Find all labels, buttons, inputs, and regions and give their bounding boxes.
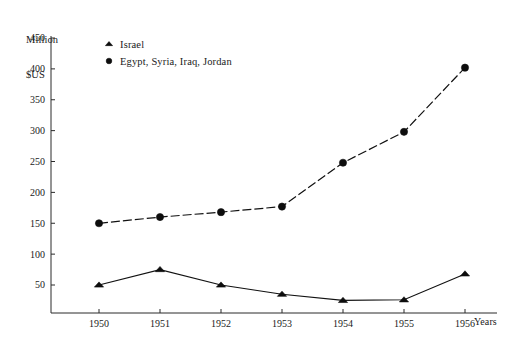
y-tick-label: 100 bbox=[30, 249, 45, 260]
x-tick-label: 1950 bbox=[89, 318, 109, 329]
axis-frame bbox=[51, 36, 497, 313]
x-axis-ticks: 1950195119521953195419551956 bbox=[89, 309, 475, 329]
y-tick-label: 50 bbox=[35, 279, 45, 290]
data-point-circle bbox=[278, 203, 285, 210]
legend-marker-circle bbox=[106, 58, 112, 64]
data-point-circle bbox=[217, 209, 224, 216]
data-point-triangle bbox=[155, 266, 164, 271]
legend-label: Egypt, Syria, Iraq, Jordan bbox=[120, 56, 232, 67]
y-tick-label: 250 bbox=[30, 156, 45, 167]
plot-area: 50100150200250300350400450 1950195119521… bbox=[0, 0, 507, 347]
data-point-circle bbox=[156, 213, 163, 220]
x-tick-label: 1956 bbox=[455, 318, 475, 329]
x-tick-label: 1953 bbox=[272, 318, 292, 329]
series-line-2 bbox=[99, 68, 465, 224]
x-tick-label: 1952 bbox=[211, 318, 231, 329]
legend-label: Israel bbox=[120, 39, 144, 50]
x-tick-label: 1955 bbox=[394, 318, 414, 329]
data-point-circle bbox=[339, 159, 346, 166]
y-tick-label: 450 bbox=[30, 32, 45, 43]
data-point-circle bbox=[461, 64, 468, 71]
y-tick-label: 200 bbox=[30, 187, 45, 198]
x-tick-label: 1951 bbox=[150, 318, 170, 329]
data-point-triangle bbox=[460, 271, 469, 276]
chart-legend: IsraelEgypt, Syria, Iraq, Jordan bbox=[105, 39, 232, 67]
y-tick-label: 350 bbox=[30, 94, 45, 105]
data-point-circle bbox=[95, 220, 102, 227]
data-point-circle bbox=[400, 128, 407, 135]
y-tick-label: 300 bbox=[30, 125, 45, 136]
y-tick-label: 150 bbox=[30, 218, 45, 229]
y-tick-label: 400 bbox=[30, 63, 45, 74]
legend-marker-triangle bbox=[105, 42, 112, 46]
series-layer bbox=[94, 64, 469, 302]
x-tick-label: 1954 bbox=[333, 318, 353, 329]
chart-container: Million $US Years 5010015020025030035040… bbox=[0, 0, 507, 347]
